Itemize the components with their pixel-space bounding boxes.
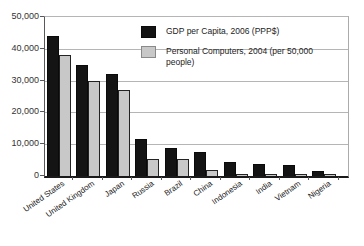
bar-pc (147, 159, 159, 176)
x-tick-label: China (192, 179, 214, 198)
bar-pc (177, 159, 189, 176)
bar-gdp (76, 65, 88, 176)
x-tick-mark (131, 177, 132, 180)
y-tick-mark (40, 111, 44, 112)
y-tick-label: 50,000 (2, 11, 39, 21)
x-tick-label: Brazil (163, 179, 185, 198)
x-tick-mark (102, 177, 103, 180)
legend-swatch-gdp (141, 26, 156, 38)
y-tick-label: 30,000 (2, 75, 39, 85)
legend-label: Personal Computers, 2004 (per 50,000 peo… (166, 46, 324, 68)
bar-gdp (194, 152, 206, 176)
y-tick-mark (40, 16, 44, 17)
y-tick-mark (40, 48, 44, 49)
y-tick-label: 20,000 (2, 106, 39, 116)
y-tick-label: 10,000 (2, 138, 39, 148)
x-tick-mark (190, 177, 191, 180)
bar-pc (59, 55, 71, 176)
x-tick-label: Vietnam (274, 179, 303, 203)
legend-label: GDP per Capita, 2006 (PPP$) (166, 26, 279, 37)
y-tick-label: 40,000 (2, 43, 39, 53)
y-tick-mark (40, 80, 44, 81)
bar-gdp (283, 165, 295, 176)
legend-item: Personal Computers, 2004 (per 50,000 peo… (141, 46, 331, 68)
bar-pc (265, 174, 277, 176)
bar-pc (118, 90, 130, 176)
bar-gdp (165, 148, 177, 176)
bar-gdp (106, 74, 118, 176)
bar-gdp (312, 171, 324, 176)
x-tick-mark (338, 177, 339, 180)
x-tick-mark (279, 177, 280, 180)
x-tick-label: Indonesia (210, 179, 244, 206)
y-tick-mark (40, 143, 44, 144)
x-tick-label: Russia (130, 179, 155, 200)
bar-pc (295, 174, 307, 176)
bar-gdp (224, 162, 236, 176)
bar-gdp (253, 164, 265, 176)
bar-chart: GDP per Capita, 2006 (PPP$)Personal Comp… (0, 0, 364, 246)
x-tick-mark (308, 177, 309, 180)
legend-item: GDP per Capita, 2006 (PPP$) (141, 26, 331, 38)
legend: GDP per Capita, 2006 (PPP$)Personal Comp… (141, 26, 331, 76)
plot-area: GDP per Capita, 2006 (PPP$)Personal Comp… (44, 16, 349, 178)
x-tick-mark (249, 177, 250, 180)
bar-gdp (47, 36, 59, 176)
bar-gdp (135, 139, 147, 176)
x-tick-mark (72, 177, 73, 180)
bar-pc (206, 170, 218, 176)
y-tick-label: 0 (2, 170, 39, 180)
x-tick-label: Japan (103, 179, 126, 199)
bar-pc (324, 174, 336, 176)
bar-pc (88, 81, 100, 176)
y-tick-mark (40, 175, 44, 176)
x-tick-label: India (254, 179, 273, 196)
bar-pc (236, 174, 248, 176)
x-tick-label: Nigeria (306, 179, 332, 201)
legend-swatch-pc (141, 46, 156, 58)
x-tick-mark (220, 177, 221, 180)
x-tick-mark (161, 177, 162, 180)
